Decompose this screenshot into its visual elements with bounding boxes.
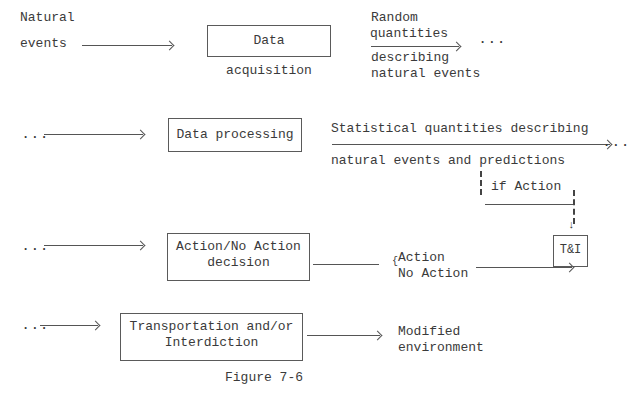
action-decision-label-line1: Action/No Action: [168, 239, 309, 255]
option-action: Action: [398, 250, 445, 265]
natural-events-predictions-label: natural events and predictions: [331, 153, 565, 168]
option-no-action: No Action: [398, 266, 468, 281]
row3-lead-dots: ...: [22, 240, 50, 254]
decision-output-line: [313, 264, 379, 265]
row2-lead-dots: ...: [22, 128, 50, 142]
row4-lead-dots: ...: [22, 319, 50, 333]
modified-environment-line1: Modified: [398, 324, 460, 339]
data-processing-label: Data processing: [176, 127, 293, 142]
data-acquisition-box: Data acquisition: [207, 25, 331, 57]
transportation-label-line2: Interdiction: [121, 335, 302, 351]
ti-box: T&I: [553, 235, 588, 267]
describing-line2: natural events: [371, 66, 480, 81]
if-action-underline: [485, 204, 573, 205]
row1-continuation-dots: ...: [479, 33, 507, 47]
natural-events-label-line1: Natural: [20, 10, 75, 25]
random-quantities-line2: quantities: [370, 26, 448, 41]
arrow-from-data-processing: [332, 144, 610, 145]
arrow-to-ti: [476, 267, 572, 268]
action-decision-box: Action/No Action decision: [167, 233, 310, 281]
data-processing-box: Data processing: [168, 118, 302, 152]
if-action-label: if Action: [491, 179, 561, 194]
arrow-from-data-acquisition: [371, 46, 459, 47]
down-arrow-icon: ↓: [568, 218, 575, 233]
figure-caption: Figure 7-6: [225, 370, 303, 385]
transportation-box: Transportation and/or Interdiction: [120, 313, 303, 361]
random-quantities-line1: Random: [371, 10, 418, 25]
ti-label: T&I: [560, 243, 582, 257]
describing-line1: describing: [371, 50, 449, 65]
statistical-quantities-label: Statistical quantities describing: [331, 121, 588, 136]
modified-environment-line2: environment: [398, 340, 484, 355]
natural-events-label-line2: events: [20, 36, 67, 51]
arrow-to-transportation: [40, 325, 98, 326]
data-acquisition-label: Data acquisition: [226, 33, 312, 78]
arrow-to-decision: [44, 245, 143, 246]
if-action-dashed-line: [480, 171, 482, 195]
arrow-to-modified-environment: [307, 335, 380, 336]
arrow-to-data-acquisition: [82, 45, 172, 46]
action-decision-label-line2: decision: [168, 255, 309, 271]
arrow-to-data-processing: [44, 134, 143, 135]
transportation-label-line1: Transportation and/or: [121, 319, 302, 335]
row2-continuation-dots: ...: [603, 136, 631, 150]
